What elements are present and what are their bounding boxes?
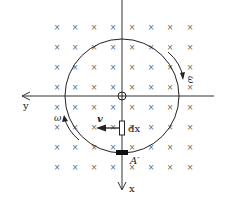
field-cross-icon: ×: [187, 83, 194, 92]
field-cross-icon: ×: [110, 43, 117, 52]
field-cross-icon: ×: [129, 63, 136, 72]
field-cross-icon: ×: [72, 43, 79, 52]
field-cross-icon: ×: [110, 143, 117, 152]
field-cross-icon: ×: [148, 123, 155, 132]
field-cross-icon: ×: [110, 23, 117, 32]
field-cross-icon: ×: [72, 143, 79, 152]
field-cross-icon: ×: [129, 43, 136, 52]
field-cross-icon: ×: [148, 103, 155, 112]
field-cross-icon: ×: [187, 23, 194, 32]
field-cross-icon: ×: [72, 83, 79, 92]
field-cross-icon: ×: [54, 63, 61, 72]
field-cross-icon: ×: [91, 163, 98, 172]
field-cross-icon: ×: [54, 103, 61, 112]
field-cross-icon: ×: [187, 143, 194, 152]
field-cross-icon: ×: [148, 23, 155, 32]
field-cross-icon: ×: [167, 23, 174, 32]
field-cross-icon: ×: [167, 143, 174, 152]
field-cross-icon: ×: [167, 103, 174, 112]
dx-label: dx: [128, 123, 140, 134]
omega-right-label: ω: [186, 76, 196, 84]
field-cross-icon: ×: [148, 163, 155, 172]
field-cross-icon: ×: [54, 123, 61, 132]
field-cross-icon: ×: [110, 103, 117, 112]
field-cross-icon: ×: [129, 103, 136, 112]
field-cross-icon: ×: [54, 83, 61, 92]
omega-left-label: ω: [54, 113, 62, 123]
field-cross-icon: ×: [110, 63, 117, 72]
field-cross-icon: ×: [72, 163, 79, 172]
field-cross-icon: ×: [148, 143, 155, 152]
field-cross-icon: ×: [110, 163, 117, 172]
point-a-prime-label: A′: [129, 155, 140, 166]
velocity-label: v: [97, 113, 103, 124]
field-cross-icon: ×: [72, 23, 79, 32]
field-cross-icon: ×: [148, 63, 155, 72]
rotation-arrowhead-left-icon: [62, 115, 68, 122]
field-cross-icon: ×: [187, 103, 194, 112]
field-cross-icon: ×: [91, 103, 98, 112]
field-cross-icon: ×: [148, 83, 155, 92]
field-cross-icon: ×: [54, 23, 61, 32]
rotation-arrowhead-right-icon: [180, 72, 185, 80]
field-cross-icon: ×: [187, 123, 194, 132]
field-cross-icon: ×: [129, 23, 136, 32]
field-cross-icon: ×: [187, 163, 194, 172]
field-cross-icon: ×: [91, 23, 98, 32]
field-cross-icon: ×: [129, 143, 136, 152]
field-cross-icon: ×: [110, 83, 117, 92]
velocity-arrowhead-icon: [96, 125, 106, 132]
field-cross-icon: ×: [72, 103, 79, 112]
field-cross-icon: ×: [91, 63, 98, 72]
field-cross-icon: ×: [91, 123, 98, 132]
field-cross-icon: ×: [54, 163, 61, 172]
x-axis-label: x: [129, 183, 135, 194]
field-cross-icon: ×: [167, 83, 174, 92]
field-cross-icon: ×: [167, 163, 174, 172]
field-cross-icon: ×: [129, 83, 136, 92]
point-a-prime-marker: [116, 150, 128, 155]
disk-diagram: ××××××××××××××××××××××××××××××××××××××××…: [0, 0, 234, 221]
field-cross-icon: ×: [54, 143, 61, 152]
field-cross-icon: ×: [91, 83, 98, 92]
y-axis-label: y: [22, 100, 29, 111]
dx-element: [120, 121, 125, 135]
field-cross-icon: ×: [187, 63, 194, 72]
field-cross-icon: ×: [167, 43, 174, 52]
field-cross-icon: ×: [187, 43, 194, 52]
field-cross-icon: ×: [54, 43, 61, 52]
